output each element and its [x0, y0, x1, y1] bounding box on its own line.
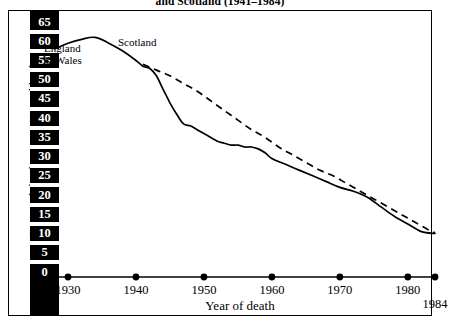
series-line-england-wales [54, 37, 435, 233]
x-tick-dot-1930 [65, 274, 72, 281]
x-tick-dot-1970 [336, 274, 343, 281]
series-label-england-wales: England & Wales [44, 43, 82, 66]
x-tick-dot-1940 [133, 274, 140, 281]
x-tick-dot-1960 [268, 274, 275, 281]
series-line-scotland [143, 64, 435, 233]
x-tick-label-1984: 1984 [405, 297, 452, 312]
x-tick-dot-1980 [404, 274, 411, 281]
x-tick-label-1950: 1950 [174, 283, 234, 298]
x-tick-label-1940: 1940 [106, 283, 166, 298]
series-label-scotland: Scotland [118, 37, 157, 49]
x-tick-label-1980: 1980 [378, 283, 438, 298]
x-tick-label-1960: 1960 [242, 283, 302, 298]
x-tick-label-1930: 1930 [38, 283, 98, 298]
x-tick-dot-1950 [201, 274, 208, 281]
x-tick-dot-1984 [432, 274, 439, 281]
x-axis-caption: Year of death [160, 298, 320, 314]
x-tick-label-1970: 1970 [310, 283, 370, 298]
